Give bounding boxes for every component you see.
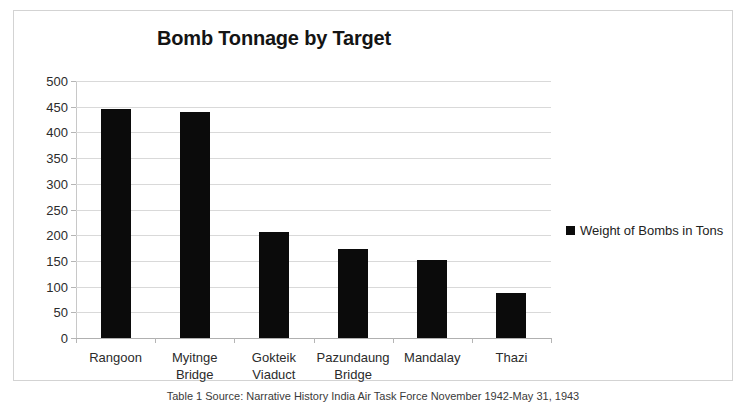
x-axis-category-line: Pazundaung	[310, 349, 396, 366]
x-axis-category-label: Rangoon	[73, 349, 159, 366]
x-axis-category-line: Gokteik	[231, 349, 317, 366]
x-axis-tick-mark	[393, 338, 394, 343]
x-axis-tick-mark	[551, 338, 552, 343]
y-axis-tick-label: 350	[24, 151, 68, 166]
x-axis-tick-mark	[314, 338, 315, 343]
x-axis-category-label: Thazi	[468, 349, 554, 366]
y-axis-labels: 500450400350300250200150100500	[22, 81, 68, 338]
chart-title: Bomb Tonnage by Target	[14, 27, 534, 50]
x-axis-tick-mark	[76, 338, 77, 343]
chart-frame: Bomb Tonnage by Target 50045040035030025…	[13, 10, 733, 381]
chart-legend: Weight of Bombs in Tons	[566, 223, 723, 238]
y-axis-tick-label: 0	[24, 331, 68, 346]
y-axis-tick-label: 400	[24, 125, 68, 140]
x-axis-tick-mark	[472, 338, 473, 343]
bar[interactable]	[417, 260, 447, 338]
gridline	[76, 107, 551, 108]
gridline	[76, 132, 551, 133]
gridline	[76, 158, 551, 159]
gridline	[76, 184, 551, 185]
bar[interactable]	[101, 109, 131, 338]
y-axis-tick-mark	[71, 210, 76, 211]
y-axis-tick-label: 100	[24, 279, 68, 294]
x-axis-category-line: Mandalay	[389, 349, 475, 366]
x-axis-category-line: Thazi	[468, 349, 554, 366]
gridline	[76, 81, 551, 82]
bar[interactable]	[338, 249, 368, 338]
y-axis-tick-label: 200	[24, 228, 68, 243]
x-axis-category-label: GokteikViaduct	[231, 349, 317, 383]
y-axis-tick-mark	[71, 81, 76, 82]
legend-entry-label: Weight of Bombs in Tons	[580, 223, 723, 238]
y-axis-tick-label: 500	[24, 74, 68, 89]
x-axis-category-label: Mandalay	[389, 349, 475, 366]
y-axis-tick-label: 450	[24, 99, 68, 114]
x-axis-category-line: Myitnge	[152, 349, 238, 366]
y-axis-tick-label: 300	[24, 176, 68, 191]
x-axis-category-label: PazundaungBridge	[310, 349, 396, 383]
bar[interactable]	[180, 112, 210, 338]
y-axis-tick-mark	[71, 132, 76, 133]
x-axis-category-label: MyitngeBridge	[152, 349, 238, 383]
bar[interactable]	[496, 293, 526, 338]
gridline	[76, 210, 551, 211]
y-axis-tick-label: 150	[24, 253, 68, 268]
chart-screenshot: Bomb Tonnage by Target 50045040035030025…	[0, 0, 746, 402]
y-axis-tick-mark	[71, 184, 76, 185]
y-axis-tick-label: 50	[24, 305, 68, 320]
y-axis-tick-mark	[71, 235, 76, 236]
figure-caption: Table 1 Source: Narrative History India …	[13, 390, 733, 402]
y-axis-tick-mark	[71, 107, 76, 108]
x-axis-category-line: Viaduct	[231, 366, 317, 383]
x-axis-tick-mark	[155, 338, 156, 343]
y-axis-tick-label: 250	[24, 202, 68, 217]
y-axis-tick-mark	[71, 287, 76, 288]
x-axis-tick-mark	[234, 338, 235, 343]
y-axis-tick-mark	[71, 312, 76, 313]
plot-area	[76, 81, 551, 338]
x-axis-category-line: Bridge	[310, 366, 396, 383]
x-axis-category-line: Rangoon	[73, 349, 159, 366]
gridline	[76, 287, 551, 288]
legend-swatch-icon	[566, 226, 575, 235]
x-axis-category-line: Bridge	[152, 366, 238, 383]
gridline	[76, 235, 551, 236]
y-axis-tick-mark	[71, 261, 76, 262]
y-axis-tick-mark	[71, 158, 76, 159]
gridline	[76, 261, 551, 262]
gridline	[76, 312, 551, 313]
bar[interactable]	[259, 232, 289, 338]
